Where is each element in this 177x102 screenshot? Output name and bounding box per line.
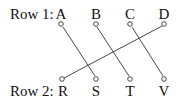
- node-circle-a: [59, 22, 64, 27]
- node-label-r: R: [55, 84, 71, 99]
- line-a-s: [63, 27, 95, 76]
- node-circle-t: [128, 77, 133, 82]
- node-circle-c: [128, 22, 133, 27]
- node-label-t: T: [122, 84, 138, 99]
- node-circle-s: [94, 77, 99, 82]
- row-2-label: Row 2:: [10, 84, 54, 99]
- node-circle-r: [60, 77, 65, 82]
- node-label-s: S: [88, 84, 104, 99]
- node-circle-d: [162, 22, 167, 27]
- node-circle-b: [94, 22, 99, 27]
- node-circle-v: [162, 77, 167, 82]
- line-c-v: [132, 27, 163, 76]
- node-label-v: V: [156, 84, 172, 99]
